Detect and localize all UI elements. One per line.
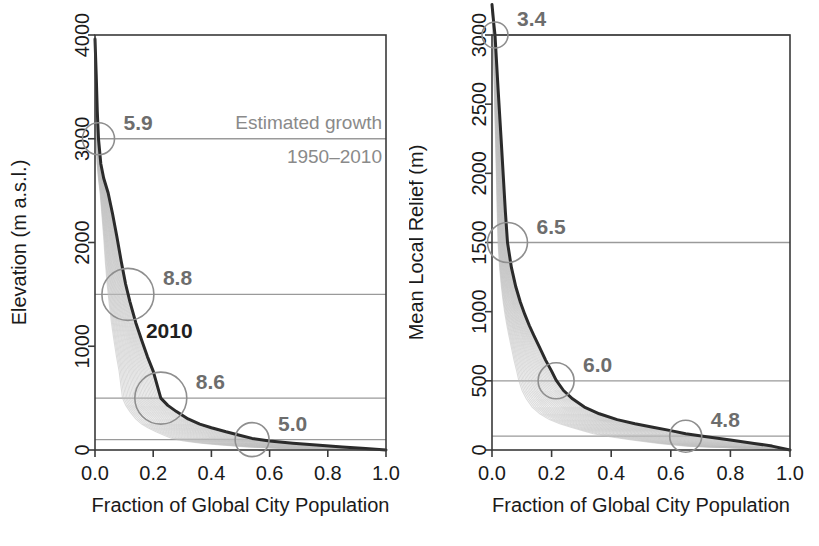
ghost-curve — [95, 39, 386, 450]
bubble-label-4.8: 4.8 — [711, 408, 741, 431]
y-tick-label: 2000 — [468, 151, 490, 196]
x-tick-label: 1.0 — [776, 462, 804, 484]
y-tick-label: 2500 — [468, 82, 490, 127]
y-tick-label: 2000 — [71, 220, 93, 265]
x-tick-label: 0.2 — [139, 462, 167, 484]
y-tick-label: 4000 — [71, 13, 93, 58]
y-tick-label: 1000 — [71, 324, 93, 369]
y-tick-label: 1000 — [468, 289, 490, 334]
figure-two-panel-exceedance-curves: 010002000300040000.00.20.40.60.81.0Fract… — [0, 0, 819, 546]
bubble-label-8.8: 8.8 — [163, 266, 193, 289]
x-tick-label: 1.0 — [372, 462, 400, 484]
bubble-label-5.9: 5.9 — [124, 111, 153, 134]
curve-label-2010: 2010 — [146, 319, 193, 342]
x-axis-title: Fraction of Global City Population — [92, 494, 390, 516]
x-tick-label: 0.2 — [538, 462, 566, 484]
panel-mean-local-relief: 0500100015002000250030000.00.20.40.60.81… — [409, 0, 819, 546]
bubble-label-3.4: 3.4 — [517, 7, 547, 30]
y-axis-title: Elevation (m a.s.l.) — [8, 160, 30, 326]
y-tick-label: 0 — [71, 444, 93, 455]
y-tick-label: 500 — [468, 364, 490, 397]
bubble-label-6.0: 6.0 — [583, 353, 612, 376]
y-tick-label: 0 — [468, 444, 490, 455]
bubble-label-6.5: 6.5 — [537, 215, 567, 238]
x-tick-label: 0.4 — [197, 462, 225, 484]
x-tick-label: 0.8 — [314, 462, 342, 484]
annotation-estimated-growth: Estimated growth — [235, 112, 382, 133]
annotation-period: 1950–2010 — [287, 146, 382, 167]
x-tick-label: 0.8 — [716, 462, 744, 484]
panel-elevation: 010002000300040000.00.20.40.60.81.0Fract… — [0, 0, 410, 546]
x-tick-label: 0.6 — [256, 462, 284, 484]
x-axis-title: Fraction of Global City Population — [492, 494, 790, 516]
x-tick-label: 0.0 — [81, 462, 109, 484]
y-tick-label: 3000 — [468, 13, 490, 58]
bubble-label-5.0: 5.0 — [278, 412, 307, 435]
y-axis-title: Mean Local Relief (m) — [409, 145, 427, 341]
x-tick-label: 0.0 — [478, 462, 506, 484]
bubble-label-8.6: 8.6 — [196, 370, 225, 393]
x-tick-label: 0.6 — [657, 462, 685, 484]
x-tick-label: 0.4 — [597, 462, 625, 484]
